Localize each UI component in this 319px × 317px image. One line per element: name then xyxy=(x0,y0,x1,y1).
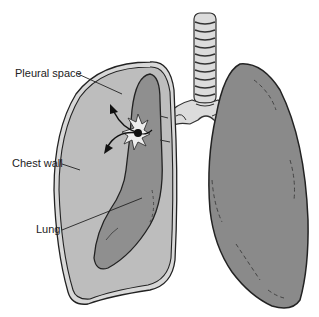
pleural-space-label: Pleural space xyxy=(15,67,82,79)
normal-lung xyxy=(209,64,308,308)
chest-wall-label: Chest wall xyxy=(12,157,63,169)
pneumothorax-diagram: Pleural space Chest wall Lung xyxy=(0,0,319,317)
lung-label: Lung xyxy=(36,223,60,235)
